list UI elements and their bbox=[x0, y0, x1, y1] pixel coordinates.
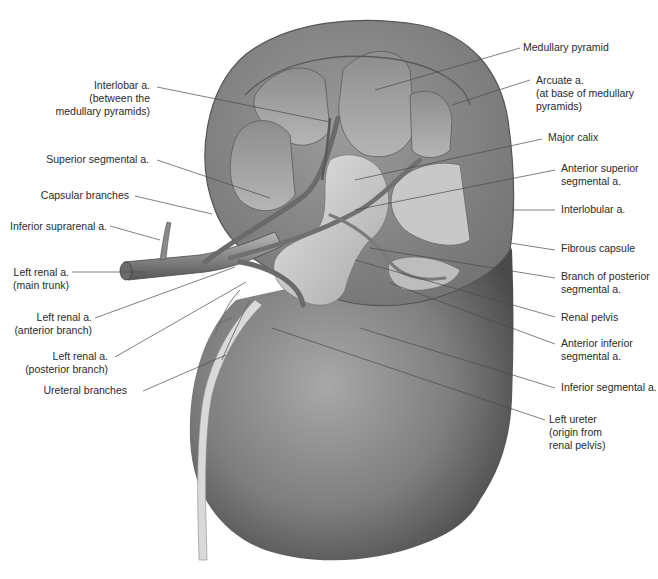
label-superior-segmental-artery: Superior segmental a. bbox=[46, 153, 149, 166]
label-ureteral-branches: Ureteral branches bbox=[44, 384, 127, 397]
label-interlobular-artery: Interlobular a. bbox=[561, 203, 625, 216]
label-left-renal-artery-main-trunk: Left renal a. (main trunk) bbox=[13, 266, 69, 292]
label-left-ureter: Left ureter (origin from renal pelvis) bbox=[549, 413, 606, 452]
label-branch-of-posterior-segmental-artery: Branch of posterior segmental a. bbox=[561, 270, 650, 296]
inferior-suprarenal-artery bbox=[160, 222, 171, 260]
label-arcuate-artery: Arcuate a. (at base of medullary pyramid… bbox=[536, 74, 634, 113]
label-renal-pelvis: Renal pelvis bbox=[561, 311, 618, 324]
label-medullary-pyramid: Medullary pyramid bbox=[523, 41, 609, 54]
renal-artery-main-trunk bbox=[124, 232, 282, 280]
label-interlobar-artery: Interlobar a. (between the medullary pyr… bbox=[55, 79, 150, 118]
label-left-renal-artery-anterior-branch: Left renal a. (anterior branch) bbox=[14, 311, 92, 337]
label-anterior-inferior-segmental-artery: Anterior inferior segmental a. bbox=[561, 337, 633, 363]
label-capsular-branches: Capsular branches bbox=[41, 189, 129, 202]
label-major-calix: Major calix bbox=[548, 131, 598, 144]
renal-artery-lumen bbox=[120, 262, 132, 280]
pyramid-left bbox=[230, 121, 295, 211]
pyramid-top-center bbox=[339, 51, 415, 156]
label-anterior-superior-segmental-artery: Anterior superior segmental a. bbox=[561, 162, 639, 188]
pyramid-right bbox=[410, 91, 452, 157]
label-inferior-segmental-artery: Inferior segmental a. bbox=[561, 381, 657, 394]
label-fibrous-capsule: Fibrous capsule bbox=[561, 242, 635, 255]
label-inferior-suprarenal-artery: Inferior suprarenal a. bbox=[10, 220, 107, 233]
label-left-renal-artery-posterior-branch: Left renal a. (posterior branch) bbox=[25, 350, 108, 376]
